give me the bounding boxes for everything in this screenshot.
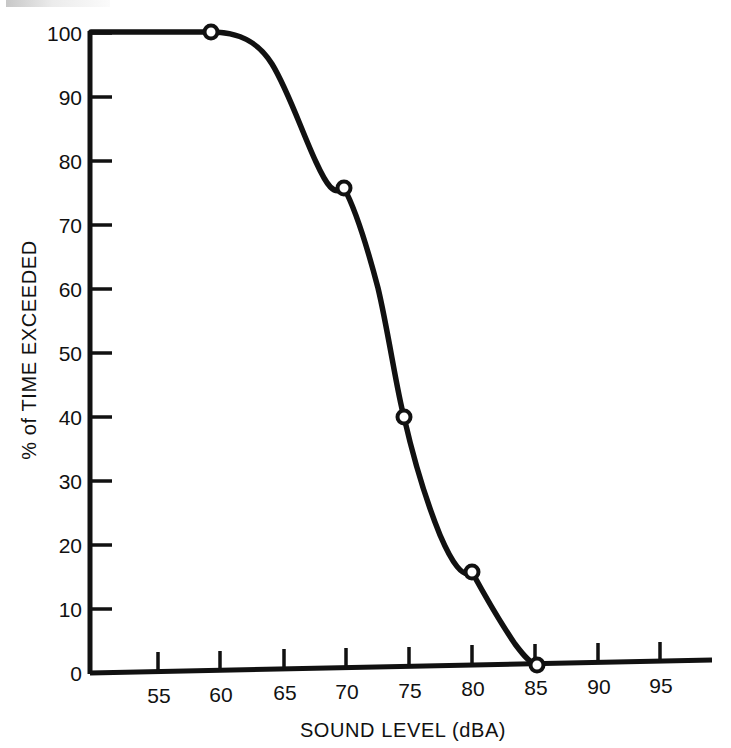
y-tick-label-30: 30 — [59, 470, 82, 493]
y-tick-label-70: 70 — [59, 214, 82, 237]
data-point-marker — [466, 566, 479, 579]
y-tick-label-60: 60 — [59, 278, 82, 301]
x-tick-label-95: 95 — [649, 674, 672, 697]
y-axis-title: % of TIME EXCEEDED — [18, 240, 40, 459]
y-tick-label-20: 20 — [59, 534, 82, 557]
data-point-marker — [338, 182, 351, 195]
y-tick-label-90: 90 — [59, 86, 82, 109]
x-tick-label-75: 75 — [398, 679, 421, 702]
scan-artifact — [6, 0, 110, 7]
y-tick-label-50: 50 — [59, 342, 82, 365]
data-point-marker — [531, 659, 544, 672]
y-tick-label-80: 80 — [59, 150, 82, 173]
x-tick-label-90: 90 — [587, 675, 610, 698]
chart-figure: 100 90 80 70 60 50 40 30 20 10 0 — [0, 0, 731, 748]
x-tick-label-70: 70 — [335, 680, 358, 703]
y-tick-label-0: 0 — [70, 662, 82, 685]
sound-level-exceedance-chart: 100 90 80 70 60 50 40 30 20 10 0 — [0, 0, 731, 748]
y-tick-label-40: 40 — [59, 406, 82, 429]
x-tick-label-60: 60 — [209, 683, 232, 706]
x-axis-title: SOUND LEVEL (dBA) — [300, 719, 506, 741]
y-tick-label-100: 100 — [47, 22, 82, 45]
data-point-marker — [205, 26, 218, 39]
x-tick-label-65: 65 — [273, 681, 296, 704]
chart-background — [0, 0, 731, 748]
data-point-marker — [398, 411, 411, 424]
x-tick-label-85: 85 — [524, 676, 547, 699]
y-tick-label-10: 10 — [59, 598, 82, 621]
x-tick-label-55: 55 — [147, 684, 170, 707]
x-tick-label-80: 80 — [461, 677, 484, 700]
